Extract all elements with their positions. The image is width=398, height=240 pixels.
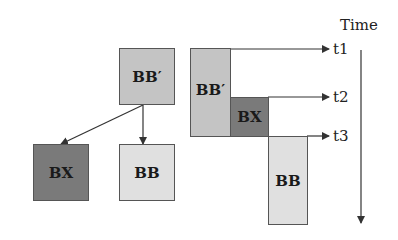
time-axis-label: Time [340, 16, 378, 34]
tree-child-bb-label: BB [134, 164, 159, 182]
timeline-block-bb: BB [268, 136, 308, 225]
timeline-bb-label: BB [275, 172, 300, 190]
tree-child-bx-label: BX [49, 164, 73, 182]
marker-t3: t3 [333, 127, 349, 145]
timeline-block-bx: BX [230, 97, 269, 137]
tree-root-label: BB′ [132, 68, 161, 86]
timeline-block-bb-prime: BB′ [190, 48, 231, 137]
tree-child-bx: BX [33, 144, 89, 201]
marker-t2: t2 [333, 88, 349, 106]
timeline-bb-prime-label: BB′ [196, 81, 225, 99]
arrow-to-bx [61, 105, 143, 144]
tree-child-bb: BB [119, 144, 175, 201]
tree-root-bb-prime: BB′ [119, 48, 175, 105]
timeline-bx-label: BX [237, 108, 261, 126]
marker-t1: t1 [333, 40, 349, 58]
